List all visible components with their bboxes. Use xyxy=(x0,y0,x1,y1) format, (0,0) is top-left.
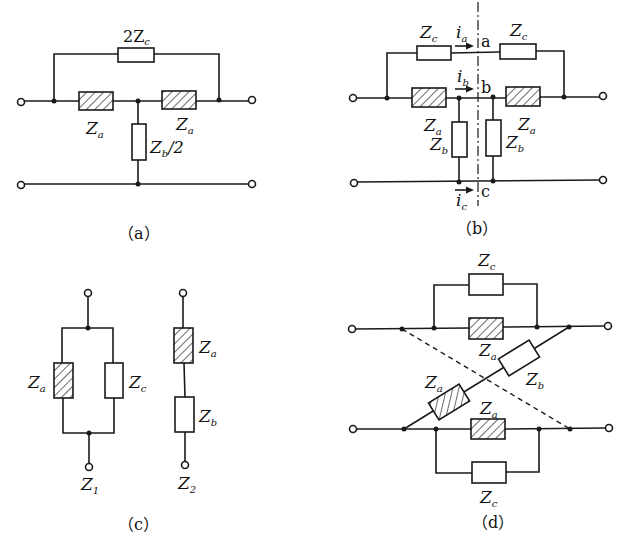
caption-d: （d） xyxy=(472,513,514,532)
panel-a: 2Zc Za Za Zb/2 （a） xyxy=(18,27,256,243)
junction-dot xyxy=(52,99,57,104)
label-node-b: b xyxy=(481,78,491,97)
terminal xyxy=(605,323,612,330)
caption-c: （c） xyxy=(118,515,159,534)
label-ib: ib xyxy=(457,66,469,88)
impedance-za xyxy=(54,363,73,398)
label-za: Za xyxy=(198,337,217,359)
junction-dot xyxy=(136,99,141,104)
impedance-zb-left xyxy=(452,122,467,157)
junction-dot xyxy=(136,182,141,187)
junction-dot xyxy=(568,427,573,432)
junction-dot xyxy=(491,179,496,184)
wire xyxy=(62,328,113,363)
label-zb: Zb xyxy=(198,406,217,428)
impedance-za-right xyxy=(506,87,540,106)
junction-dot xyxy=(535,325,540,330)
terminal xyxy=(350,95,357,102)
impedance-zc xyxy=(105,363,123,398)
impedance-zc-left xyxy=(417,46,451,60)
label-za-diagonal: Za xyxy=(424,372,443,394)
junction-dot xyxy=(434,427,439,432)
terminal xyxy=(350,426,357,433)
label-za-left: Za xyxy=(85,118,104,140)
terminal xyxy=(182,462,189,469)
label-zc-bottom: Zc xyxy=(479,487,498,509)
junction-dot xyxy=(432,326,437,331)
wire xyxy=(451,52,500,53)
impedance-za-bottom xyxy=(471,419,505,439)
wire xyxy=(505,428,605,429)
terminal xyxy=(351,180,358,187)
impedance-za-left xyxy=(79,92,113,110)
junction-dot xyxy=(567,325,572,330)
terminal xyxy=(349,326,356,333)
wire xyxy=(355,328,469,329)
caption-a: （a） xyxy=(118,224,160,243)
junction-dot xyxy=(385,96,390,101)
junction-dot xyxy=(87,431,92,436)
terminal xyxy=(249,181,256,188)
junction-dot xyxy=(86,326,91,331)
junction-dot xyxy=(402,427,407,432)
wire xyxy=(184,363,185,397)
terminal xyxy=(18,99,25,106)
impedance-zb-right xyxy=(486,120,501,156)
circuit-figure: 2Zc Za Za Zb/2 （a） xyxy=(0,0,628,544)
panel-b: Zc Zc ia a ib b Za Zb Za Zb ic c （b） xyxy=(350,2,607,238)
terminal xyxy=(249,97,256,104)
impedance-za-right xyxy=(162,91,196,109)
junction-dot xyxy=(400,327,405,332)
label-zc-left: Zc xyxy=(419,22,438,44)
label-z2: Z2 xyxy=(177,473,196,495)
label-za-bottom: Za xyxy=(479,398,498,420)
wire xyxy=(503,326,605,327)
junction-dot xyxy=(217,98,222,103)
terminal xyxy=(85,290,92,297)
terminal xyxy=(86,464,93,471)
terminal xyxy=(606,425,613,432)
label-za-right: Za xyxy=(175,114,194,136)
label-zc-top: Zc xyxy=(477,250,496,272)
wire xyxy=(63,398,114,433)
label-za: Za xyxy=(27,372,46,394)
label-ic: ic xyxy=(456,190,467,212)
impedance-zb xyxy=(175,397,194,432)
terminal xyxy=(600,177,607,184)
junction-dot xyxy=(491,95,496,100)
label-za-right: Za xyxy=(517,114,536,136)
label-ia: ia xyxy=(456,22,467,44)
wire xyxy=(356,180,600,182)
panel-d: Zc Za Zb Za Za Zc （d） xyxy=(349,250,613,532)
label-zc: Zc xyxy=(128,372,147,394)
impedance-za-top xyxy=(469,318,503,339)
label-zc-right: Zc xyxy=(509,20,528,42)
impedance-zc-top xyxy=(469,274,503,295)
label-za-top: Za xyxy=(478,340,497,362)
panel-c: Za Zc Z1 Za Zb Z2 （c） xyxy=(27,290,217,535)
label-node-a: a xyxy=(481,32,491,51)
label-zb-half: Zb/2 xyxy=(149,137,184,159)
caption-b: （b） xyxy=(456,219,498,238)
terminal xyxy=(18,182,25,189)
wire xyxy=(506,429,539,472)
junction-dot xyxy=(457,180,462,185)
label-z1: Z1 xyxy=(80,474,99,496)
label-node-c: c xyxy=(481,182,490,201)
junction-dot xyxy=(457,96,462,101)
impedance-za xyxy=(174,328,193,363)
junction-dot xyxy=(537,427,542,432)
label-zb-right: Zb xyxy=(505,132,524,154)
wire xyxy=(434,285,469,328)
label-zb-left: Zb xyxy=(429,134,448,156)
terminal xyxy=(600,93,607,100)
label-2zc: 2Zc xyxy=(123,27,150,47)
impedance-zc-bottom xyxy=(472,462,506,483)
impedance-2zc xyxy=(118,48,154,62)
impedance-zc-right xyxy=(500,44,536,59)
impedance-zb-half xyxy=(132,124,146,160)
wire xyxy=(503,284,537,327)
impedance-za-left xyxy=(412,88,446,107)
wire xyxy=(436,429,472,473)
junction-dot xyxy=(562,95,567,100)
